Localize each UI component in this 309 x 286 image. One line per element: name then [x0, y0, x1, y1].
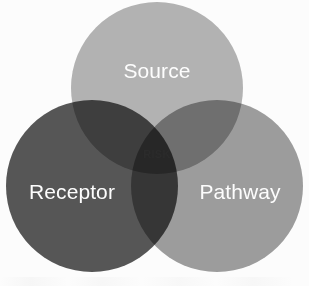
venn-label-source: Source	[123, 59, 190, 82]
venn-label-pathway: Pathway	[199, 180, 281, 203]
venn-label-risk: RISK	[143, 148, 170, 160]
venn-diagram-canvas: Source Receptor Pathway RISK	[0, 0, 309, 286]
venn-label-receptor: Receptor	[29, 180, 115, 203]
venn-diagram: Source Receptor Pathway RISK	[0, 0, 309, 286]
